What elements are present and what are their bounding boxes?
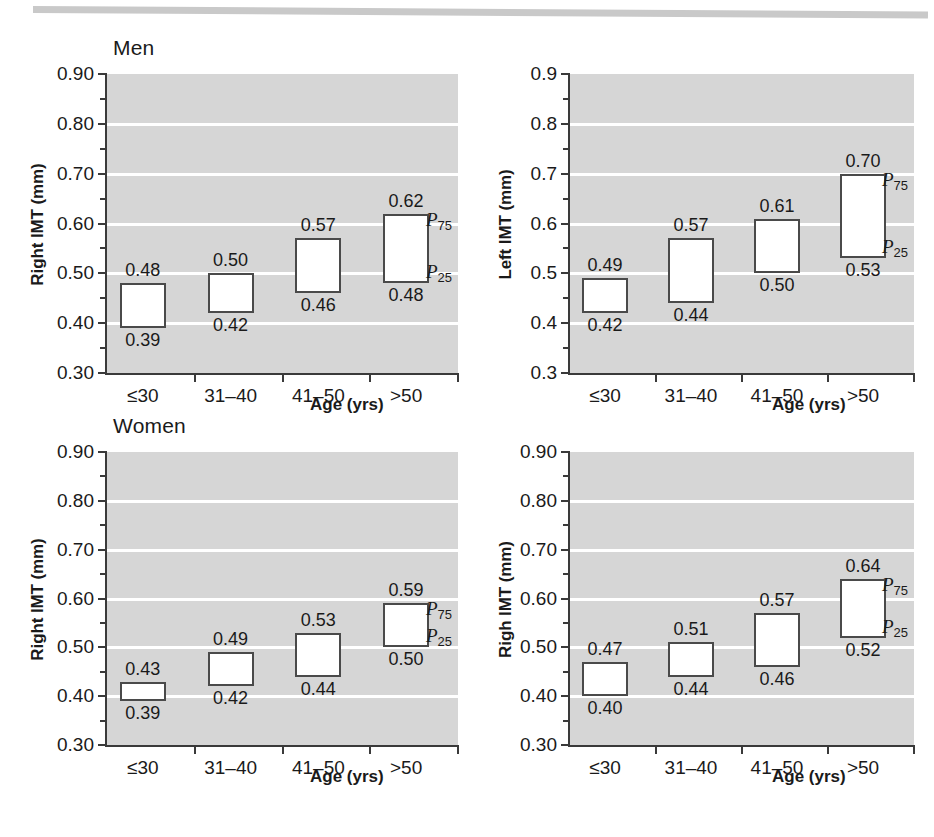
y-tick-minor [100,671,107,673]
p75-annotation: P75 [882,574,908,598]
gridline [570,123,914,126]
box-value-label-bottom: 0.42 [213,688,248,709]
p75-annotation: P75 [882,169,908,193]
x-tick [369,373,371,382]
p25-annotation: P25 [882,236,908,260]
y-tick-major [98,500,107,502]
box-value-label-top: 0.57 [759,590,794,611]
box-value-label-bottom: 0.44 [673,679,708,700]
y-tick-label: 0.5 [531,262,557,284]
y-tick-label: 0.50 [57,636,94,658]
x-tick-label: 31–40 [204,385,257,407]
y-tick-major [98,695,107,697]
p25-subscript: 25 [438,271,452,286]
x-tick [282,745,284,754]
x-tick [913,745,915,754]
y-tick-minor [100,148,107,150]
y-tick-minor [100,524,107,526]
y-tick-minor [100,347,107,349]
y-tick-major [561,695,570,697]
scan-artifact-bar [33,6,928,18]
y-tick-major [98,123,107,125]
gridline [107,646,458,649]
box-value-label-bottom: 0.48 [389,285,424,306]
x-tick [194,745,196,754]
p75-symbol: P [882,574,894,595]
p75-symbol: P [426,209,438,230]
box-value-label-top: 0.61 [759,196,794,217]
box-value-label-top: 0.62 [389,191,424,212]
gridline [570,322,914,325]
x-tick [655,745,657,754]
y-tick-minor [563,198,570,200]
y-tick-minor [100,475,107,477]
y-axis-label-women-left: Righ IMT (mm) [496,453,516,746]
x-tick [457,745,459,754]
y-tick-major [98,173,107,175]
x-tick-label: 31–40 [665,757,718,779]
x-tick-label: ≤30 [127,757,159,779]
box-value-label-bottom: 0.42 [213,315,248,336]
y-tick-label: 0.7 [531,163,557,185]
y-tick-minor [563,622,570,624]
x-tick [282,373,284,382]
p75-annotation: P75 [426,598,452,622]
x-tick [827,373,829,382]
plot-area-men-left: 0.90.80.70.60.50.40.3≤3031–4041–50>500.4… [568,74,914,375]
x-tick-label: 41–50 [751,385,804,407]
y-tick-label: 0.30 [520,734,557,756]
x-axis-label-women-left: Age (yrs) [772,767,846,787]
box-value-label-top: 0.57 [301,215,336,236]
y-tick-minor [100,247,107,249]
gridline [107,500,458,503]
gridline [107,549,458,552]
p75-subscript: 75 [438,218,452,233]
y-tick-label: 0.90 [57,441,94,463]
y-tick-major [561,549,570,551]
percentile-box [208,652,254,686]
y-tick-major [98,322,107,324]
p75-subscript: 75 [894,178,908,193]
gridline [107,322,458,325]
x-axis-label-women-right: Age (yrs) [310,767,384,787]
gridline [570,500,914,503]
x-tick [741,745,743,754]
y-tick-minor [563,148,570,150]
percentile-box [840,174,886,259]
y-tick-minor [563,524,570,526]
x-tick-label: 41–50 [292,385,345,407]
p25-annotation: P25 [426,261,452,285]
box-value-label-bottom: 0.52 [845,640,880,661]
x-tick [457,373,459,382]
x-tick-label: >50 [847,757,879,779]
box-value-label-top: 0.51 [673,619,708,640]
x-tick [194,373,196,382]
y-tick-minor [100,297,107,299]
y-tick-major [561,173,570,175]
gridline [107,123,458,126]
y-tick-minor [100,198,107,200]
y-tick-major [561,272,570,274]
y-tick-major [561,123,570,125]
gridline [570,646,914,649]
box-value-label-top: 0.64 [845,556,880,577]
x-tick-label: ≤30 [589,757,621,779]
y-tick-minor [100,720,107,722]
p25-subscript: 25 [438,635,452,650]
y-tick-minor [563,475,570,477]
p25-annotation: P25 [426,625,452,649]
gridline [107,695,458,698]
y-tick-minor [563,247,570,249]
chart-panel-women-left: Righ IMT (mm)Age (yrs)0.900.800.700.600.… [0,0,934,837]
y-tick-label: 0.6 [531,213,557,235]
y-tick-major [98,598,107,600]
gridline [570,173,914,176]
box-value-label-bottom: 0.42 [587,315,622,336]
plot-area-women-right: 0.900.800.700.600.500.400.30≤3031–4041–5… [105,452,458,747]
box-value-label-top: 0.53 [301,610,336,631]
y-tick-label: 0.80 [520,490,557,512]
percentile-box [295,633,341,677]
gridline [107,272,458,275]
y-tick-label: 0.4 [531,312,557,334]
percentile-box [668,238,714,303]
